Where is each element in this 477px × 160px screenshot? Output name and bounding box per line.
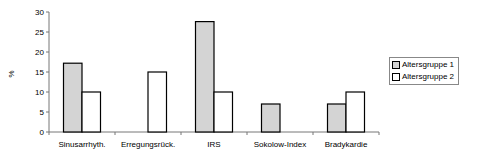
- legend: Altersgruppe 1 Altersgruppe 2: [389, 57, 459, 85]
- legend-label-1: Altersgruppe 1: [402, 59, 454, 71]
- bar: [262, 104, 281, 132]
- legend-item-1: Altersgruppe 1: [392, 59, 456, 71]
- x-tick-label: Sinusarrhyth.: [58, 140, 105, 149]
- bar: [148, 72, 167, 132]
- bars: [64, 22, 365, 132]
- bar: [64, 63, 83, 132]
- legend-swatch-2: [392, 73, 400, 81]
- y-tick-label: 25: [35, 28, 44, 37]
- y-tick-label: 15: [35, 68, 44, 77]
- x-axis-labels: Sinusarrhyth.Erregungsrück.IRSSokolow-In…: [58, 140, 367, 149]
- y-tick-label: 5: [40, 108, 45, 117]
- x-tick-label: Erregungsrück.: [121, 140, 175, 149]
- legend-swatch-1: [392, 61, 400, 69]
- x-tick-label: Bradykardie: [325, 140, 368, 149]
- y-tick-label: 30: [35, 8, 44, 17]
- y-tick-label: 10: [35, 88, 44, 97]
- bar: [196, 22, 215, 132]
- y-axis-label: %: [7, 70, 16, 77]
- x-tick-label: Sokolow-Index: [254, 140, 306, 149]
- x-tick-label: IRS: [207, 140, 220, 149]
- y-tick-label: 20: [35, 48, 44, 57]
- bar: [328, 104, 347, 132]
- bar: [346, 92, 365, 132]
- y-tick-label: 0: [40, 128, 45, 137]
- bar: [214, 92, 233, 132]
- legend-item-2: Altersgruppe 2: [392, 71, 456, 83]
- bar: [82, 92, 101, 132]
- legend-label-2: Altersgruppe 2: [402, 71, 454, 83]
